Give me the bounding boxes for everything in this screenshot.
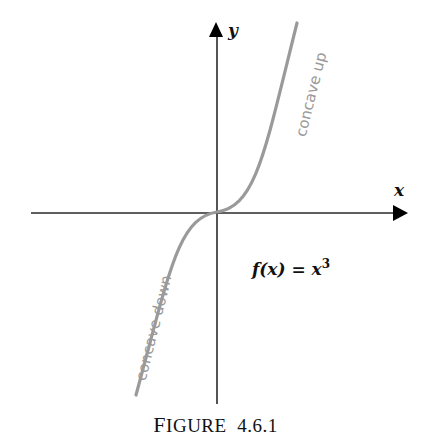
plot-area: [0, 0, 431, 444]
figure-caption: FIGURE 4.6.1: [0, 412, 431, 438]
equation-exponent: 3: [322, 257, 330, 271]
y-axis-arrow-icon: [209, 22, 223, 37]
caption-number: 4.6.1: [237, 415, 278, 436]
caption-word: IGURE: [166, 415, 227, 436]
x-axis-arrow-icon: [393, 205, 408, 221]
equation-lhs: f(x) = x: [252, 259, 322, 279]
x-axis-label: x: [394, 180, 404, 200]
cubic-function-figure: y x concave up concave down f(x) = x3 FI…: [0, 0, 431, 444]
y-axis-label: y: [228, 20, 238, 40]
caption-prefix: F: [153, 412, 166, 437]
function-equation: f(x) = x3: [252, 257, 330, 279]
